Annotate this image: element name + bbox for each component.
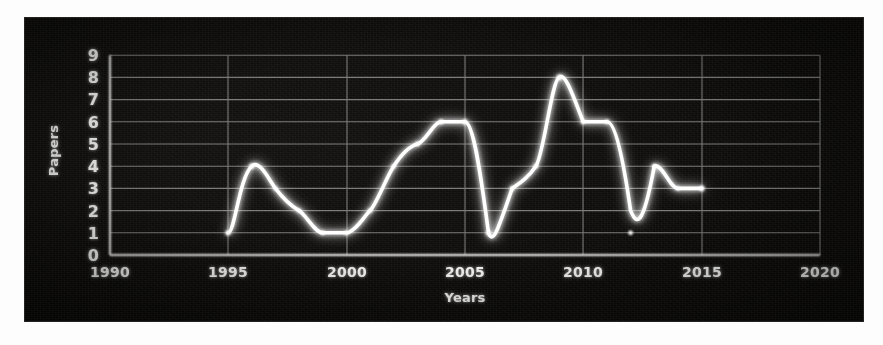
x-tick-2000: 2000: [317, 264, 377, 280]
y-tick-4: 4: [77, 157, 99, 176]
chart-image: 9 8 7 6 5 4 3 2 1 0 Papers 1990 1995 200…: [0, 0, 883, 345]
y-tick-5: 5: [77, 135, 99, 154]
y-tick-3: 3: [77, 179, 99, 198]
x-tick-2010: 2010: [553, 264, 613, 280]
y-tick-0: 0: [77, 246, 99, 265]
chart-plate: 9 8 7 6 5 4 3 2 1 0 Papers 1990 1995 200…: [25, 18, 863, 321]
grid-lines: [110, 55, 820, 255]
y-tick-8: 8: [77, 68, 99, 87]
x-tick-2015: 2015: [672, 264, 732, 280]
y-tick-1: 1: [77, 224, 99, 243]
y-axis-title: Papers: [46, 121, 61, 181]
x-tick-2005: 2005: [435, 264, 495, 280]
y-tick-6: 6: [77, 113, 99, 132]
x-tick-1995: 1995: [198, 264, 258, 280]
y-tick-2: 2: [77, 202, 99, 221]
y-tick-9: 9: [77, 46, 99, 65]
x-tick-1990: 1990: [80, 264, 140, 280]
y-tick-7: 7: [77, 90, 99, 109]
x-axis-title: Years: [405, 290, 525, 305]
x-tick-2020: 2020: [790, 264, 850, 280]
